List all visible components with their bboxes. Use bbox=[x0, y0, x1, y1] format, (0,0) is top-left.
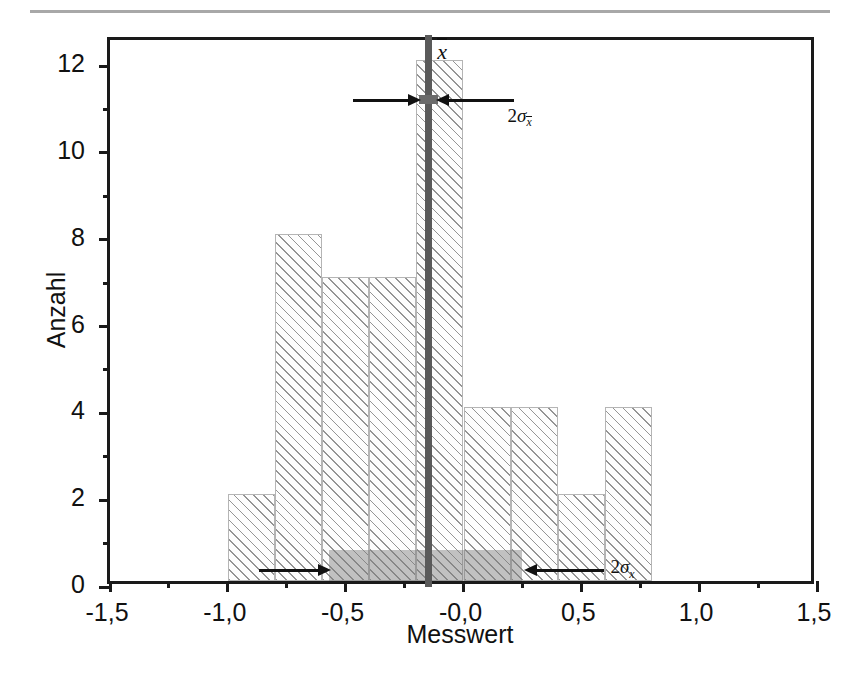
x-axis-tick-label: -0,5 bbox=[321, 598, 364, 627]
plot-frame: x2σx2σx bbox=[107, 37, 814, 584]
x-axis-tick bbox=[462, 581, 465, 592]
x-axis-minor-tick bbox=[403, 581, 406, 588]
x-axis-tick-label: 1,5 bbox=[797, 598, 832, 627]
y-axis-tick bbox=[99, 325, 110, 328]
x-axis-tick-label: 0,5 bbox=[561, 598, 596, 627]
histogram-bar bbox=[275, 234, 322, 581]
x-axis-tick bbox=[816, 581, 819, 592]
y-axis-minor-tick bbox=[103, 542, 110, 545]
x-axis-tick-label: 1,0 bbox=[679, 598, 714, 627]
y-axis-tick bbox=[99, 238, 110, 241]
x-axis-tick bbox=[226, 581, 229, 592]
y-axis-minor-tick bbox=[103, 455, 110, 458]
x-axis-tick bbox=[580, 581, 583, 592]
x-axis-tick-label: -0,0 bbox=[439, 598, 482, 627]
sigma-mean-label: 2σx bbox=[508, 105, 532, 131]
y-axis-minor-tick bbox=[103, 108, 110, 111]
y-axis-tick bbox=[99, 151, 110, 154]
y-axis-tick bbox=[99, 499, 110, 502]
histogram-bar bbox=[416, 60, 463, 581]
y-axis-tick-label: 4 bbox=[0, 396, 85, 425]
y-axis-minor-tick bbox=[103, 282, 110, 285]
x-axis-minor-tick bbox=[167, 581, 170, 588]
y-axis-tick-label: 6 bbox=[0, 309, 85, 338]
y-axis-minor-tick bbox=[103, 368, 110, 371]
x-axis-minor-tick bbox=[757, 581, 760, 588]
x-axis-tick-label: -1,5 bbox=[85, 598, 128, 627]
y-axis-tick-label: 2 bbox=[0, 483, 85, 512]
plot-area: x2σx2σx bbox=[110, 40, 811, 581]
chart-page: Anzahl Messwert 024681012 -1,5-1,0-0,5-0… bbox=[0, 0, 857, 677]
x-axis-tick bbox=[698, 581, 701, 592]
y-axis-minor-tick bbox=[103, 195, 110, 198]
x-axis-minor-tick bbox=[521, 581, 524, 588]
header-divider-rule bbox=[30, 10, 830, 13]
histogram-bar bbox=[322, 277, 369, 581]
mean-line bbox=[425, 35, 432, 587]
x-axis-tick bbox=[344, 581, 347, 592]
y-axis-tick-label: 12 bbox=[0, 49, 85, 78]
x-axis-tick-label: -1,0 bbox=[203, 598, 246, 627]
y-axis-tick-label: 0 bbox=[0, 570, 85, 599]
y-axis-tick bbox=[99, 65, 110, 68]
histogram-bar bbox=[369, 277, 416, 581]
y-axis-tick bbox=[99, 412, 110, 415]
x-axis-minor-tick bbox=[285, 581, 288, 588]
x-axis-minor-tick bbox=[639, 581, 642, 588]
y-axis-tick-label: 10 bbox=[0, 135, 85, 164]
x-axis-tick bbox=[109, 581, 112, 592]
y-axis-tick-label: 8 bbox=[0, 222, 85, 251]
mean-label: x bbox=[437, 38, 447, 65]
sigma-x-label: 2σx bbox=[610, 556, 634, 582]
